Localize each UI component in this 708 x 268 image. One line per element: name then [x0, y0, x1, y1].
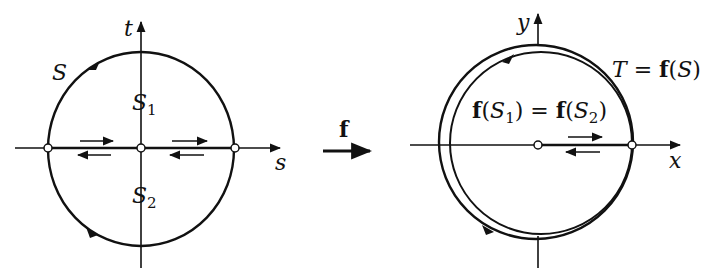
- mapping-label: f: [339, 116, 350, 142]
- y-axis-label: y: [516, 10, 530, 35]
- region-S2-label: S2: [132, 183, 157, 212]
- point-origin: [137, 144, 145, 152]
- image-region-label: f(S1) = f(S2): [472, 97, 607, 127]
- left-panel: t s S S1 S2: [15, 16, 286, 268]
- x-axis-label: x: [669, 148, 682, 173]
- right-panel: y x T = f(S) f(S1) = f(S2): [410, 10, 701, 268]
- region-S1-label: S1: [132, 90, 157, 119]
- mapping-f: f: [323, 116, 370, 151]
- curve-S-label: S: [52, 60, 67, 85]
- point-right: [628, 141, 636, 149]
- mapping-diagram: t s S S1 S2 f y x T = f(S) f(S1) = f(S2): [0, 0, 708, 268]
- point-left: [44, 144, 52, 152]
- image-curve-label: T = f(S): [612, 56, 701, 82]
- direction-arrow-lower-icon: [86, 227, 98, 238]
- s-axis-label: s: [275, 150, 286, 175]
- point-right: [231, 144, 239, 152]
- point-origin: [534, 141, 542, 149]
- t-axis-label: t: [124, 16, 133, 41]
